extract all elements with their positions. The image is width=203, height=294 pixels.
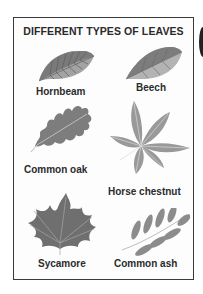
common-oak-leaf-image (27, 96, 97, 156)
hornbeam-leaf-image (36, 44, 96, 84)
chart-title: DIFFERENT TYPES OF LEAVES (14, 25, 193, 37)
page-edge-mark (199, 27, 203, 57)
common-ash-label: Common ash (114, 258, 177, 269)
horse-chestnut-leaf-image (104, 96, 194, 176)
horse-chestnut-label: Horse chestnut (108, 186, 181, 197)
sycamore-label: Sycamore (38, 258, 86, 269)
leaf-chart-frame: DIFFERENT TYPES OF LEAVES Hornbeam (13, 17, 194, 280)
common-ash-leaf-image (114, 208, 190, 258)
beech-label: Beech (136, 82, 166, 93)
beech-leaf-image (124, 42, 184, 84)
sycamore-leaf-image (22, 193, 98, 255)
common-oak-label: Common oak (24, 164, 87, 175)
